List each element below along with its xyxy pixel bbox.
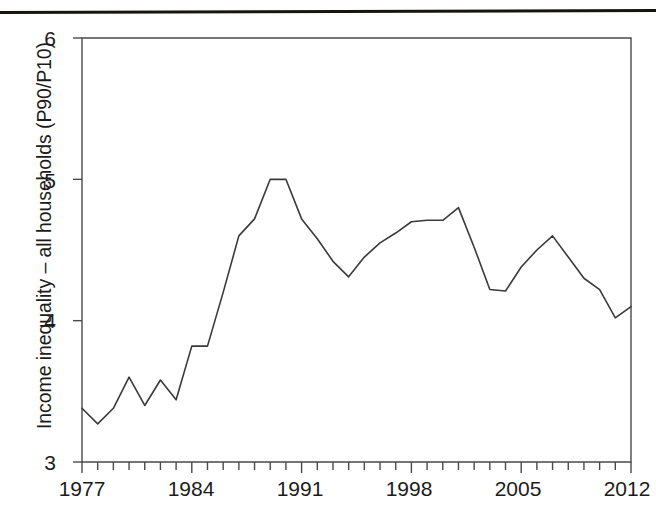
- figure-container: Income inequality – all households (P90/…: [0, 0, 656, 514]
- plot-area: [0, 0, 656, 514]
- y-tick-marks: [73, 38, 82, 462]
- x-tick-marks: [82, 462, 631, 473]
- data-series-line: [82, 179, 631, 424]
- axis-frame: [82, 38, 631, 462]
